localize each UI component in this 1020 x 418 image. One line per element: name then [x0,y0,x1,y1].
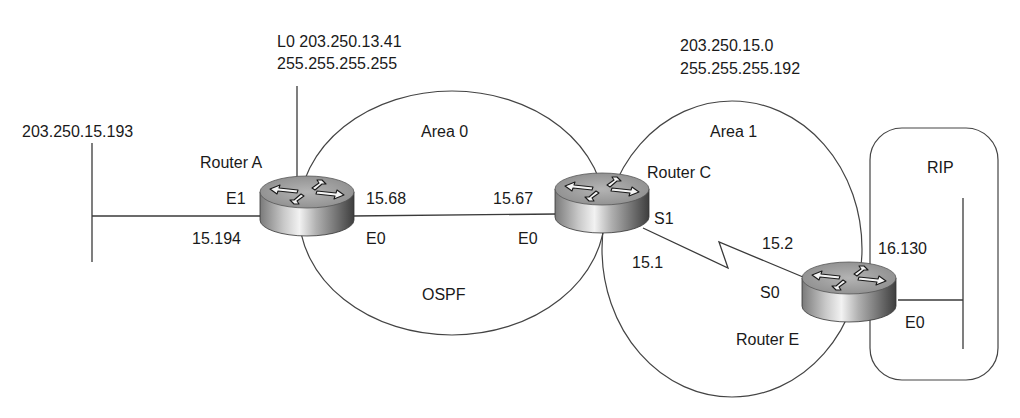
router-icon [555,173,649,233]
loopback-mask: 255.255.255.255 [277,55,397,72]
rip-label: RIP [927,159,954,176]
area-1-label: Area 1 [710,123,757,140]
router-c-s1-label: S1 [654,210,674,227]
router-e-name: Router E [736,331,799,348]
router-a-e0-address: 15.68 [366,190,406,207]
ospf-label: OSPF [422,286,466,303]
router-c-name: Router C [647,164,711,181]
router-a[interactable]: Router A E1 15.194 15.68 E0 [192,154,406,247]
router-e[interactable]: 15.2 S0 Router E 16.130 E0 [736,235,927,348]
router-e-e0-address: 16.130 [878,240,927,257]
ethernet-link-a-c [352,214,557,216]
left-ethernet-label: 203.250.15.193 [22,123,133,140]
router-icon [260,176,354,236]
area-0-label: Area 0 [421,123,468,140]
loopback-segment: L0 203.250.13.41 255.255.255.255 [277,33,402,178]
network-diagram: 203.250.15.193 L0 203.250.13.41 255.255.… [0,0,1020,418]
area-1-subnet: 203.250.15.0 [680,37,774,54]
router-a-e1-label: E1 [226,190,246,207]
router-a-e1-address: 15.194 [192,230,241,247]
router-c-s1-address: 15.1 [632,254,663,271]
area-1-mask: 255.255.255.192 [680,60,800,77]
router-e-e0-label: E0 [905,314,925,331]
router-a-name: Router A [200,154,263,171]
router-a-e0-label: E0 [366,230,386,247]
router-icon [802,262,896,322]
router-c-e0-label: E0 [518,230,538,247]
router-c-e0-address: 15.67 [493,190,533,207]
loopback-address: L0 203.250.13.41 [277,33,402,50]
router-e-s0-address: 15.2 [762,235,793,252]
router-e-s0-label: S0 [760,284,780,301]
